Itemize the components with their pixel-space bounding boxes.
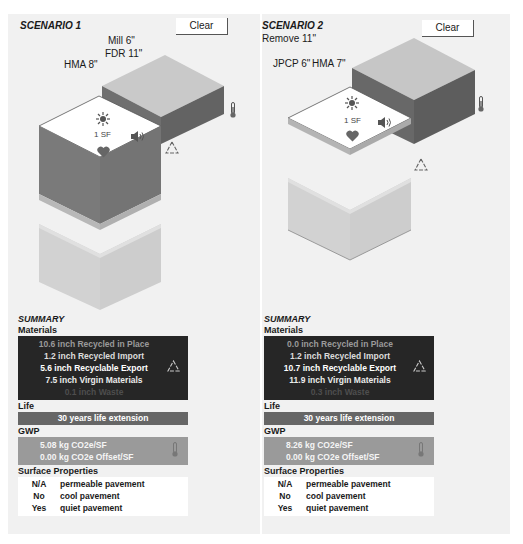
summary-title: SUMMARY	[264, 314, 434, 324]
material-waste: 0.3 inch Waste	[264, 386, 434, 398]
surface-properties-box: N/Apermeable pavement Nocool pavement Ye…	[18, 477, 188, 516]
material-recyclable-export: 10.7 inch Recyclable Export	[264, 362, 434, 374]
life-label: Life	[18, 401, 188, 411]
material-recyclable-export: 5.6 inch Recyclable Export	[18, 362, 188, 374]
surface-row-cool: Nocool pavement	[264, 490, 434, 502]
speaker-icon	[131, 128, 145, 139]
scenario-1-summary: SUMMARY Materials 10.6 inch Recycled in …	[18, 314, 188, 516]
materials-label: Materials	[264, 325, 434, 335]
surface-value: No	[18, 490, 60, 502]
recycle-icon	[165, 140, 179, 153]
surface-value: Yes	[264, 502, 306, 514]
surface-label: permeable pavement	[60, 478, 188, 490]
life-value: 30 years life extension	[18, 412, 188, 425]
scenario-2-summary: SUMMARY Materials 0.0 inch Recycled in P…	[264, 314, 434, 516]
surface-value: N/A	[18, 478, 60, 490]
recycle-icon	[167, 360, 180, 374]
surface-value: No	[264, 490, 306, 502]
surface-label: permeable pavement	[306, 478, 434, 490]
scenario-1-panel: SCENARIO 1 Clear Mill 6" FDR 11" HMA 8" …	[8, 14, 260, 534]
surface-row-quiet: Yesquiet pavement	[264, 502, 434, 514]
material-virgin: 7.5 inch Virgin Materials	[18, 374, 188, 386]
sun-icon	[96, 112, 110, 126]
unit-label: 1 SF	[344, 116, 361, 125]
materials-box: 10.6 inch Recycled in Place 1.2 inch Rec…	[18, 336, 188, 400]
material-waste: 0.1 inch Waste	[18, 386, 188, 398]
materials-box: 0.0 inch Recycled in Place 1.2 inch Recy…	[264, 336, 434, 400]
sun-icon	[345, 96, 359, 110]
scenario-1-pavement-diagram	[8, 14, 260, 314]
thermometer-icon	[172, 442, 178, 459]
unit-label: 1 SF	[94, 130, 111, 139]
material-recycled-import: 1.2 inch Recycled Import	[264, 350, 434, 362]
material-virgin: 11.9 inch Virgin Materials	[264, 374, 434, 386]
thermometer-icon	[230, 102, 236, 118]
gwp-offset: 0.00 kg CO2e Offset/SF	[264, 451, 434, 463]
surface-properties-label: Surface Properties	[264, 466, 434, 476]
heart-icon	[346, 128, 359, 140]
gwp-label: GWP	[264, 426, 434, 436]
scenario-2-pavement-diagram	[262, 14, 510, 314]
summary-title: SUMMARY	[18, 314, 188, 324]
surface-value: N/A	[264, 478, 306, 490]
gwp-emissions: 5.08 kg CO2e/SF	[18, 439, 188, 451]
gwp-box: 5.08 kg CO2e/SF 0.00 kg CO2e Offset/SF	[18, 437, 188, 465]
surface-label: quiet pavement	[306, 502, 434, 514]
surface-label: quiet pavement	[60, 502, 188, 514]
surface-label: cool pavement	[306, 490, 434, 502]
gwp-offset: 0.00 kg CO2e Offset/SF	[18, 451, 188, 463]
surface-row-quiet: Yesquiet pavement	[18, 502, 188, 514]
life-value: 30 years life extension	[264, 412, 434, 425]
surface-row-cool: Nocool pavement	[18, 490, 188, 502]
recycle-icon	[414, 157, 428, 170]
gwp-box: 8.26 kg CO2e/SF 0.00 kg CO2e Offset/SF	[264, 437, 434, 465]
thermometer-icon	[418, 442, 424, 459]
life-label: Life	[264, 401, 434, 411]
thermometer-icon	[478, 96, 484, 112]
surface-value: Yes	[18, 502, 60, 514]
recycle-icon	[413, 360, 426, 374]
heart-icon	[97, 144, 110, 156]
scenario-2-panel: SCENARIO 2 Clear Remove 11" JPCP 6" HMA …	[262, 14, 510, 534]
surface-row-permeable: N/Apermeable pavement	[264, 478, 434, 490]
material-recycled-in-place: 0.0 inch Recycled in Place	[264, 338, 434, 350]
gwp-label: GWP	[18, 426, 188, 436]
surface-row-permeable: N/Apermeable pavement	[18, 478, 188, 490]
surface-label: cool pavement	[60, 490, 188, 502]
speaker-icon	[378, 114, 392, 125]
materials-label: Materials	[18, 325, 188, 335]
gwp-emissions: 8.26 kg CO2e/SF	[264, 439, 434, 451]
material-recycled-import: 1.2 inch Recycled Import	[18, 350, 188, 362]
material-recycled-in-place: 10.6 inch Recycled in Place	[18, 338, 188, 350]
surface-properties-box: N/Apermeable pavement Nocool pavement Ye…	[264, 477, 434, 516]
surface-properties-label: Surface Properties	[18, 466, 188, 476]
